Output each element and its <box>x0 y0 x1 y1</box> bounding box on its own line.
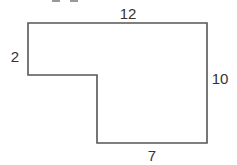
label-right-side: 10 <box>212 70 229 87</box>
label-top-side: 12 <box>120 5 137 22</box>
label-bottom-side: 7 <box>148 147 156 164</box>
l-shape-diagram: 12 2 10 7 <box>0 0 237 165</box>
cropped-text-fragment <box>52 0 60 2</box>
l-shape-outline <box>28 23 207 143</box>
cropped-text-fragment <box>70 0 78 2</box>
label-left-side: 2 <box>11 48 19 65</box>
